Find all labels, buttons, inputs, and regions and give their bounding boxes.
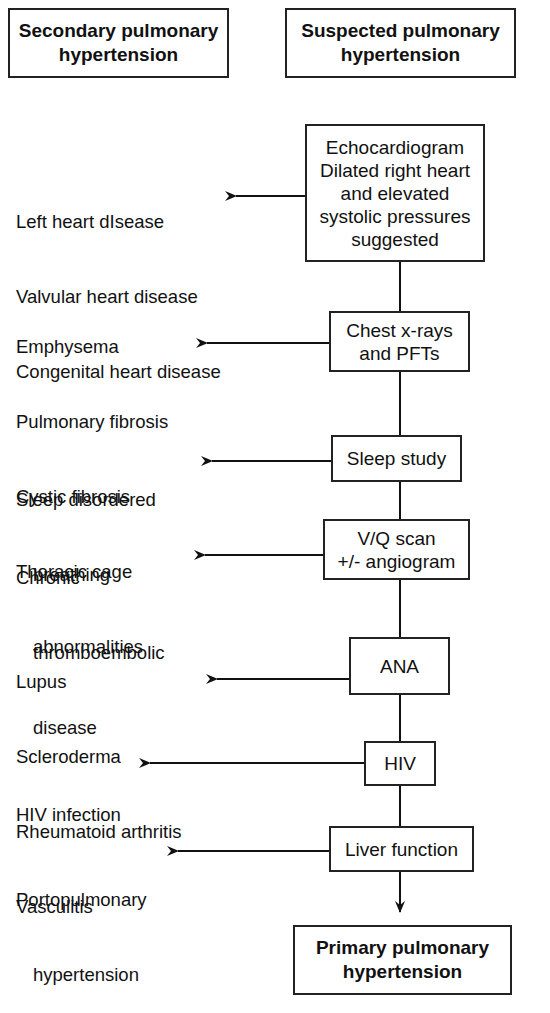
box-primary-ph: Primary pulmonary hypertension: [293, 925, 512, 995]
box-hiv: HIV: [364, 741, 436, 786]
box-echocardiogram: Echocardiogram Dilated right heart and e…: [305, 124, 485, 262]
box-vq-scan: V/Q scan +/- angiogram: [323, 519, 470, 580]
finding: Emphysema: [16, 334, 168, 359]
finding: Chronic: [16, 565, 165, 590]
box-ana: ANA: [349, 637, 450, 695]
finding: Sleep disordered: [16, 487, 156, 512]
findings-liver: Portopulmonary hypertension: [16, 837, 147, 1012]
header-suspected: Suspected pulmonary hypertension: [285, 8, 516, 78]
box-chest-xray: Chest x-rays and PFTs: [329, 311, 470, 372]
finding: Pulmonary fibrosis: [16, 409, 168, 434]
box-sleep-study: Sleep study: [331, 435, 462, 482]
finding: Portopulmonary: [16, 887, 147, 912]
finding: Left heart dIsease: [16, 209, 221, 234]
finding: HIV infection: [16, 802, 121, 827]
header-secondary: Secondary pulmonary hypertension: [8, 8, 229, 78]
finding: hypertension: [16, 962, 147, 987]
finding: Lupus: [16, 669, 182, 694]
box-liver-function: Liver function: [329, 826, 474, 872]
